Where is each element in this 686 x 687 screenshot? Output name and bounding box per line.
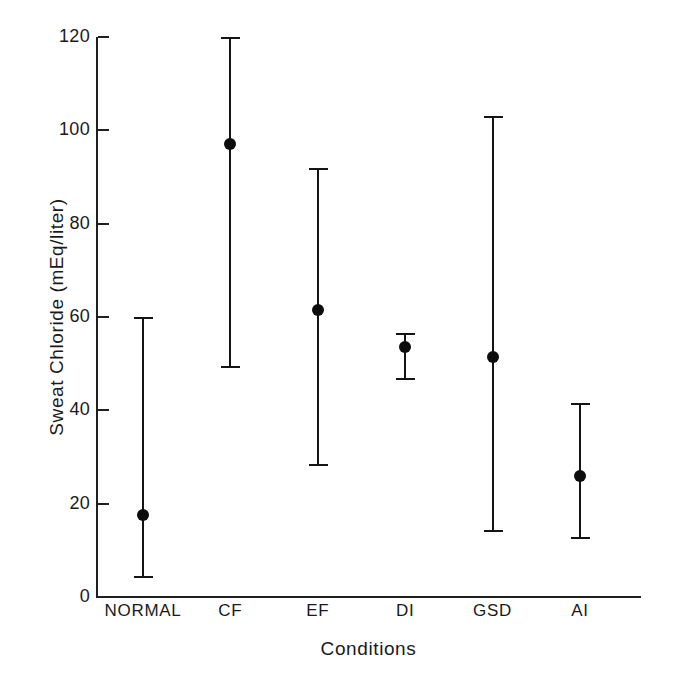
y-tick-mark [98,409,109,411]
y-tick-mark [98,36,109,38]
y-tick-label: 40 [44,399,90,420]
sweat-chloride-error-bar-chart: Sweat Chloride (mEq/liter) Conditions 02… [0,0,686,687]
y-tick-label: 60 [44,306,90,327]
error-bar-upper-cap [309,168,328,170]
error-bar-upper-cap [221,37,240,39]
error-bar-lower-cap [221,366,240,368]
error-bar-upper-cap [396,333,415,335]
error-bar-upper-cap [571,403,590,405]
x-tick-label-ai: AI [520,601,640,621]
x-axis-title: Conditions [97,638,640,660]
error-bar-upper-cap [134,317,153,319]
error-bar-stem [404,333,406,380]
error-bar-stem [142,317,144,578]
y-tick-mark [98,316,109,318]
data-point-marker [312,304,324,316]
error-bar-stem [317,168,319,467]
data-point-marker [574,470,586,482]
y-tick-mark [98,596,109,598]
error-bar-upper-cap [484,116,503,118]
y-tick-label: 80 [44,213,90,234]
y-tick-mark [98,223,109,225]
y-tick-mark [98,129,109,131]
x-axis-line [96,596,641,598]
y-tick-mark [98,503,109,505]
data-point-marker [487,351,499,363]
error-bar-lower-cap [309,464,328,466]
y-tick-label: 20 [44,493,90,514]
data-point-marker [224,138,236,150]
y-tick-label: 120 [44,26,90,47]
y-tick-label: 100 [44,119,90,140]
error-bar-lower-cap [571,537,590,539]
data-point-marker [399,341,411,353]
error-bar-stem [492,116,494,531]
error-bar-stem [229,37,231,368]
data-point-marker [137,509,149,521]
error-bar-lower-cap [484,530,503,532]
error-bar-lower-cap [396,378,415,380]
error-bar-lower-cap [134,576,153,578]
